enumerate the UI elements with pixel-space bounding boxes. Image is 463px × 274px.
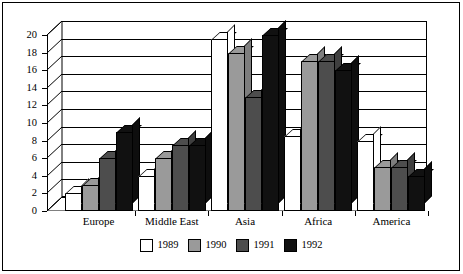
legend-label: 1991 [254, 240, 275, 251]
y-axis-tick [42, 123, 47, 124]
bar [374, 167, 391, 211]
bar [245, 97, 262, 211]
gridline-depth-connector [47, 91, 63, 107]
y-axis-tick [42, 88, 47, 89]
legend-label: 1990 [206, 240, 227, 251]
bar [262, 35, 279, 211]
bar [284, 136, 301, 211]
gridline-depth-connector [47, 56, 63, 72]
gridline-depth-connector [47, 127, 63, 143]
bar [65, 193, 82, 211]
y-axis-tick-label: 4 [11, 171, 37, 182]
legend-swatch-icon [140, 239, 153, 252]
y-axis-tick [42, 105, 47, 106]
y-axis-tick [42, 35, 47, 36]
gridline-depth-connector [47, 179, 63, 195]
y-axis-tick-label: 18 [11, 48, 37, 59]
gridline-depth-connector [47, 162, 63, 178]
legend-label: 1992 [302, 240, 323, 251]
y-axis-tick-label: 12 [11, 100, 37, 111]
gridline [62, 21, 427, 22]
bar [211, 39, 228, 211]
bar [155, 158, 172, 211]
bar [301, 61, 318, 211]
chart-frame: 02468101214161820 EuropeMiddle EastAsiaA… [2, 2, 460, 271]
x-axis-label: America [345, 215, 438, 227]
legend-item[interactable]: 1992 [284, 239, 323, 252]
y-axis-tick [42, 193, 47, 194]
bar [408, 176, 425, 211]
y-axis-tick [42, 53, 47, 54]
bar [189, 145, 206, 211]
legend-item[interactable]: 1991 [236, 239, 275, 252]
y-axis-tick [42, 176, 47, 177]
y-axis-tick-label: 2 [11, 188, 37, 199]
y-axis-tick [42, 141, 47, 142]
bar [116, 132, 133, 211]
y-axis-tick [42, 211, 47, 212]
legend-swatch-icon [236, 239, 249, 252]
legend-item[interactable]: 1989 [140, 239, 179, 252]
bar [391, 167, 408, 211]
gridline-depth-connector [47, 109, 63, 125]
y-axis-tick [42, 70, 47, 71]
gridline-depth-connector [47, 39, 63, 55]
gridline [62, 39, 427, 40]
y-axis-tick-label: 20 [11, 30, 37, 41]
bar-side-face [424, 161, 432, 204]
gridline-depth-connector [47, 74, 63, 90]
bar [318, 61, 335, 211]
legend-swatch-icon [188, 239, 201, 252]
y-axis-tick-label: 0 [11, 206, 37, 217]
gridline-depth-connector [47, 21, 63, 37]
y-axis-tick-label: 10 [11, 118, 37, 129]
y-axis-tick-label: 14 [11, 83, 37, 94]
bar [138, 176, 155, 211]
gridline-depth-connector [47, 144, 63, 160]
bar [82, 185, 99, 211]
chart-figure: 02468101214161820 EuropeMiddle EastAsiaA… [0, 0, 463, 274]
bar [172, 145, 189, 211]
bar [357, 141, 374, 211]
y-axis-tick [42, 158, 47, 159]
y-axis-tick-label: 8 [11, 136, 37, 147]
legend-item[interactable]: 1990 [188, 239, 227, 252]
y-axis-tick-label: 16 [11, 65, 37, 76]
bar [99, 158, 116, 211]
bar [335, 70, 352, 211]
x-axis-tick [428, 211, 429, 216]
chart-legend: 1989199019911992 [3, 239, 459, 252]
bar [228, 53, 245, 211]
legend-swatch-icon [284, 239, 297, 252]
plot-area: 02468101214161820 EuropeMiddle EastAsiaA… [47, 21, 427, 211]
legend-label: 1989 [158, 240, 179, 251]
y-axis-tick-label: 6 [11, 153, 37, 164]
gridline-depth-connector [47, 197, 63, 213]
